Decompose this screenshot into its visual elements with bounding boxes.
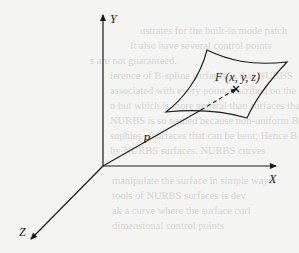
point-f-label: F (x, y, z) bbox=[214, 70, 260, 84]
z-axis bbox=[31, 166, 103, 239]
y-axis-label: Y bbox=[110, 12, 118, 26]
vector-p-solid bbox=[103, 110, 201, 166]
x-axis-label: X bbox=[268, 172, 277, 186]
surface-patch bbox=[166, 50, 287, 118]
vector-p-label: P bbox=[142, 132, 151, 146]
coordinate-diagram: Y X Z P F (x, y, z) bbox=[0, 0, 299, 253]
vector-p-dashed bbox=[201, 89, 236, 110]
z-axis-label: Z bbox=[19, 225, 26, 239]
point-f-marker bbox=[233, 86, 239, 92]
